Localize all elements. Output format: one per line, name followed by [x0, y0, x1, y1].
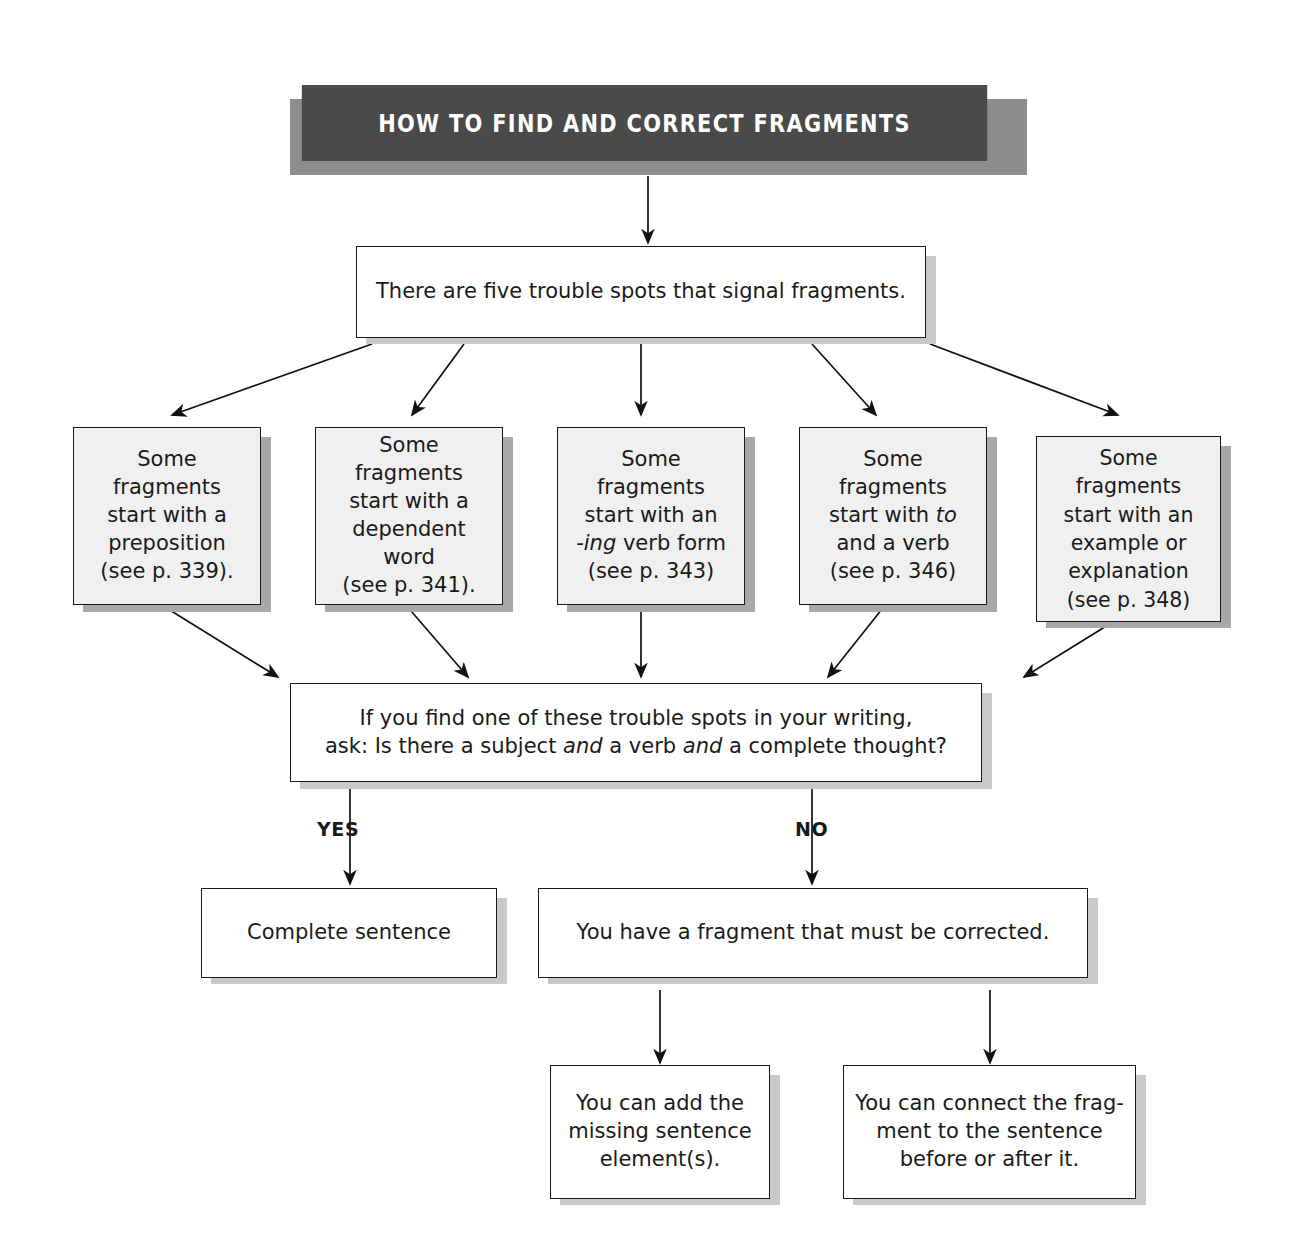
line: element(s).: [600, 1147, 721, 1171]
outcome-no-box: You have a fragment that must be correct…: [538, 888, 1088, 978]
title-banner: HOW TO FIND AND CORRECT FRAGMENTS: [302, 85, 987, 161]
outcome-yes-text: Complete sentence: [210, 919, 488, 947]
trouble-spot-5-text: Some fragments start with an example or …: [1045, 444, 1212, 614]
line: and a verb: [836, 531, 949, 555]
decision-line-2: ask: Is there a subject and a verb and a…: [325, 734, 947, 758]
line: Some fragments: [355, 433, 463, 485]
line: dependent word: [352, 517, 466, 569]
trouble-spot-3: Some fragments start with an -ing verb f…: [557, 427, 745, 605]
line: You can connect the frag-: [855, 1091, 1124, 1115]
decision-line-1: If you find one of these trouble spots i…: [360, 706, 913, 730]
outcome-no-text: You have a fragment that must be correct…: [547, 919, 1079, 947]
line: (see p. 348): [1067, 588, 1191, 612]
trouble-spot-2: Some fragments start with a dependent wo…: [315, 427, 503, 605]
trouble-spot-1: Some fragments start with a preposition …: [73, 427, 261, 605]
line: (see p. 341).: [342, 573, 475, 597]
arrow-intro-to-spot4: [812, 344, 876, 415]
line-italic-to: start with to: [829, 503, 957, 527]
arrow-spot4-to-decision: [828, 604, 886, 677]
line: Some fragments: [597, 447, 705, 499]
title-text: HOW TO FIND AND CORRECT FRAGMENTS: [378, 109, 911, 138]
line-italic-ing: -ing verb form: [576, 531, 726, 555]
arrow-spot1-to-decision: [160, 604, 278, 677]
line: Some fragments: [1076, 446, 1182, 498]
line: before or after it.: [900, 1147, 1080, 1171]
trouble-spot-3-text: Some fragments start with an -ing verb f…: [566, 446, 736, 586]
branch-label-no: NO: [795, 818, 828, 840]
line: Some fragments: [839, 447, 947, 499]
seg-italic: and: [683, 734, 723, 758]
line: start with an: [1064, 503, 1194, 527]
seg-italic: and: [563, 734, 603, 758]
intro-text: There are five trouble spots that signal…: [365, 278, 917, 306]
line: You can add the: [576, 1091, 744, 1115]
seg: ask: Is there a subject: [325, 734, 563, 758]
trouble-spot-5: Some fragments start with an example or …: [1036, 436, 1221, 622]
seg: a complete thought?: [722, 734, 947, 758]
fix-1-text: You can add the missing sentence element…: [559, 1090, 761, 1174]
line: start with an: [585, 503, 718, 527]
fix-1-box: You can add the missing sentence element…: [550, 1065, 770, 1199]
line: start with a: [107, 503, 227, 527]
line: explanation: [1068, 559, 1188, 583]
trouble-spot-1-text: Some fragments start with a preposition …: [82, 446, 252, 586]
arrow-intro-to-spot1: [172, 344, 372, 415]
line: (see p. 346): [830, 559, 957, 583]
line: (see p. 339).: [100, 559, 233, 583]
flowchart-page: HOW TO FIND AND CORRECT FRAGMENTS There …: [0, 0, 1294, 1260]
arrow-intro-to-spot5: [930, 344, 1118, 415]
line: example or: [1071, 531, 1187, 555]
seg: a verb: [603, 734, 683, 758]
fix-2-text: You can connect the frag- ment to the se…: [852, 1090, 1127, 1174]
branch-label-yes: YES: [317, 818, 359, 840]
line: (see p. 343): [588, 559, 715, 583]
trouble-spot-4-text: Some fragments start with to and a verb …: [808, 446, 978, 586]
arrow-intro-to-spot2: [412, 344, 464, 415]
outcome-yes-box: Complete sentence: [201, 888, 497, 978]
line: Some fragments: [113, 447, 221, 499]
trouble-spot-2-text: Some fragments start with a dependent wo…: [324, 432, 494, 600]
intro-box: There are five trouble spots that signal…: [356, 246, 926, 338]
line: missing sentence: [568, 1119, 751, 1143]
fix-2-box: You can connect the frag- ment to the se…: [843, 1065, 1136, 1199]
trouble-spot-4: Some fragments start with to and a verb …: [799, 427, 987, 605]
line: preposition: [108, 531, 226, 555]
line: ment to the sentence: [876, 1119, 1103, 1143]
decision-text: If you find one of these trouble spots i…: [299, 705, 973, 761]
arrow-spot2-to-decision: [405, 604, 468, 677]
decision-box: If you find one of these trouble spots i…: [290, 683, 982, 782]
line: start with a: [349, 489, 469, 513]
arrow-spot5-to-decision: [1024, 620, 1116, 677]
